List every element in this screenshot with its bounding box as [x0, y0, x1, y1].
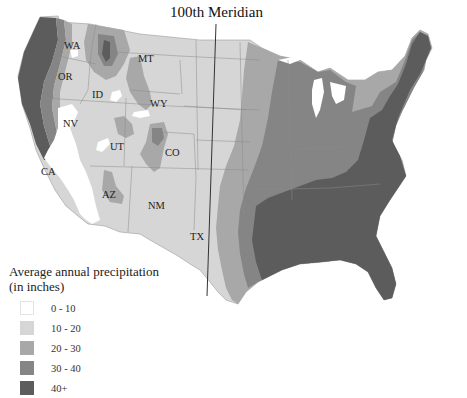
legend-item-40-plus: 40+	[20, 378, 189, 398]
legend-swatch	[20, 301, 34, 315]
state-label-tx: TX	[190, 231, 204, 242]
legend-item-20-30: 20 - 30	[20, 338, 189, 358]
meridian-title: 100th Meridian	[170, 4, 263, 21]
legend-swatch	[20, 381, 34, 395]
legend-label: 10 - 20	[51, 323, 81, 334]
legend-title-line2: (in inches)	[9, 279, 189, 294]
legend-item-10-20: 10 - 20	[20, 318, 189, 338]
legend-title: Average annual precipitation (in inches)	[9, 264, 189, 294]
state-label-nv: NV	[63, 118, 79, 129]
legend-label: 20 - 30	[51, 343, 81, 354]
legend-label: 0 - 10	[51, 303, 76, 314]
legend-swatch	[20, 341, 34, 355]
state-label-wy: WY	[150, 98, 168, 109]
state-label-az: AZ	[102, 189, 116, 200]
legend-swatch	[20, 361, 34, 375]
state-label-ca: CA	[41, 166, 56, 177]
state-label-id: ID	[92, 89, 103, 100]
legend-title-line1: Average annual precipitation	[9, 264, 189, 279]
state-label-mt: MT	[138, 53, 154, 64]
legend-item-0-10: 0 - 10	[20, 298, 189, 318]
state-label-ut: UT	[110, 141, 125, 152]
legend: Average annual precipitation (in inches)…	[9, 264, 189, 398]
state-label-nm: NM	[148, 200, 166, 211]
legend-label: 40+	[51, 383, 67, 394]
legend-swatch	[20, 321, 34, 335]
legend-items: 0 - 10 10 - 20 20 - 30 30 - 40 40+	[20, 298, 189, 398]
state-label-co: CO	[165, 147, 180, 158]
legend-item-30-40: 30 - 40	[20, 358, 189, 378]
state-label-or: OR	[58, 71, 73, 82]
state-label-wa: WA	[64, 40, 81, 51]
legend-label: 30 - 40	[51, 363, 81, 374]
